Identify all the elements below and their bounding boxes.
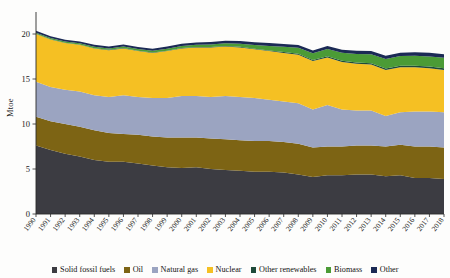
legend-label: Natural gas [161,266,199,274]
plot-area: 0510152019901991199219931994199519961997… [0,0,450,248]
x-tick-label-1991: 1991 [36,215,52,232]
x-tick-label-2012: 2012 [342,215,358,232]
x-tick-label-1994: 1994 [80,215,96,232]
legend-swatch-icon [251,267,257,273]
x-tick-label-2017: 2017 [415,215,431,232]
x-tick-label-1997: 1997 [123,215,139,232]
legend-label: Other renewables [259,266,317,274]
x-tick-label-2000: 2000 [167,215,183,232]
y-tick-label: 5 [26,164,30,174]
legend-swatch-icon [207,267,213,273]
x-tick-label-2008: 2008 [284,215,300,232]
x-tick-label-1999: 1999 [153,215,169,232]
legend-label: Biomass [334,266,362,274]
x-tick-label-1993: 1993 [65,215,81,232]
x-tick-label-2018: 2018 [429,215,445,232]
x-tick-label-1990: 1990 [21,215,37,232]
legend-item-oil[interactable]: Oil [124,266,143,274]
x-tick-label-2001: 2001 [182,215,198,232]
legend-label: Other [380,266,399,274]
stacked-area-chart: 0510152019901991199219931994199519961997… [0,0,450,278]
x-tick-label-2006: 2006 [255,215,271,232]
legend-item-other-renewables[interactable]: Other renewables [251,266,317,274]
legend-label: Solid fossil fuels [60,266,115,274]
legend-item-nuclear[interactable]: Nuclear [207,266,241,274]
x-tick-label-2003: 2003 [211,215,227,232]
x-tick-label-2002: 2002 [196,215,212,232]
legend-item-solid-fossil-fuels[interactable]: Solid fossil fuels [52,266,116,274]
y-tick-label: 10 [22,119,31,129]
legend-swatch-icon [371,267,377,273]
legend-label: Oil [133,266,143,274]
x-tick-label-2009: 2009 [298,215,314,232]
y-tick-label: 15 [22,74,31,84]
legend-item-other[interactable]: Other [371,266,398,274]
x-tick-label-2015: 2015 [386,215,402,232]
x-tick-label-2004: 2004 [225,215,241,232]
chart-canvas: 0510152019901991199219931994199519961997… [0,0,450,248]
x-tick-label-2014: 2014 [371,215,387,232]
chart-legend: Solid fossil fuelsOilNatural gasNuclearO… [0,266,450,274]
legend-swatch-icon [52,267,58,273]
y-tick-label: 20 [22,29,31,39]
x-tick-label-1995: 1995 [94,215,110,232]
x-tick-label-2005: 2005 [240,215,256,232]
legend-swatch-icon [124,267,130,273]
x-tick-label-2010: 2010 [313,215,329,232]
x-tick-label-2013: 2013 [357,215,373,232]
x-tick-label-1996: 1996 [109,215,125,232]
x-tick-label-1998: 1998 [138,215,154,232]
legend-swatch-icon [152,267,158,273]
legend-item-biomass[interactable]: Biomass [326,266,363,274]
legend-swatch-icon [326,267,332,273]
x-tick-label-2007: 2007 [269,215,285,232]
legend-item-natural-gas[interactable]: Natural gas [152,266,198,274]
x-tick-label-2016: 2016 [400,215,416,232]
x-tick-label-1992: 1992 [51,215,67,232]
y-axis-title: Mtoe [5,101,15,117]
legend-label: Nuclear [216,266,242,274]
x-tick-label-2011: 2011 [328,215,344,232]
